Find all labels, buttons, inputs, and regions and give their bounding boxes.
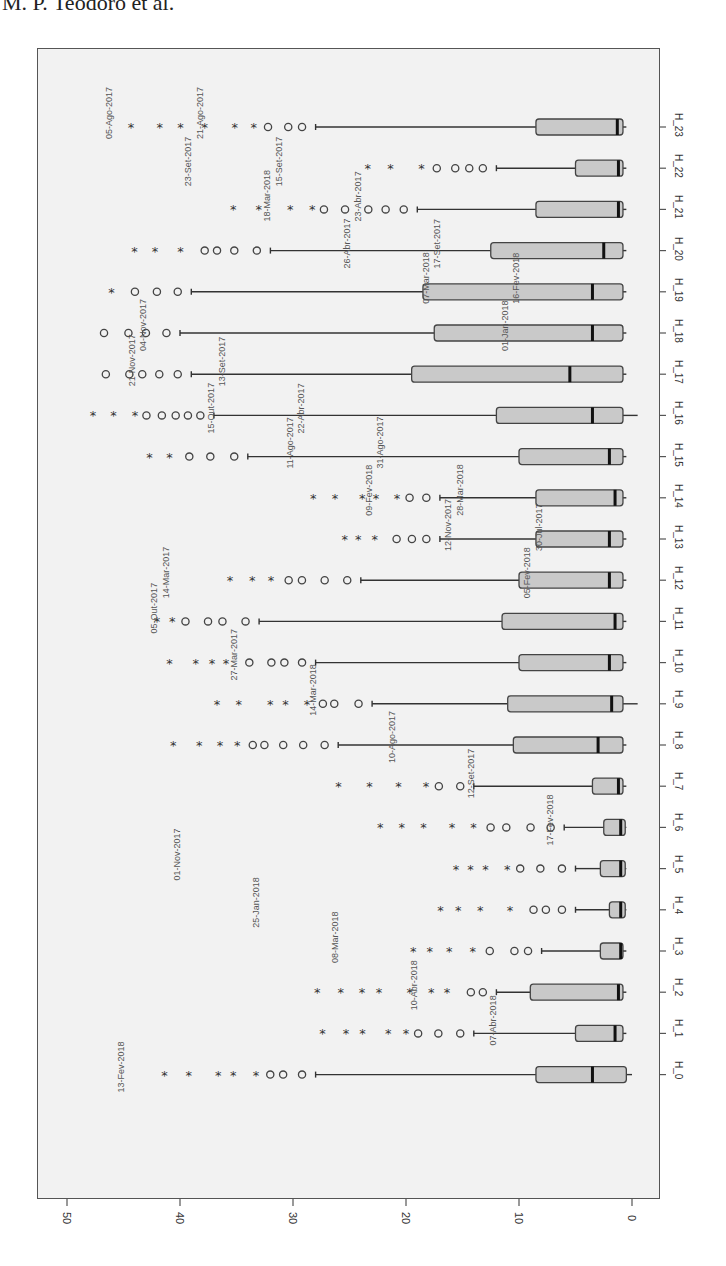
outlier-asterisk: * — [444, 985, 451, 1000]
outlier-asterisk: * — [128, 120, 135, 135]
outlier-circle — [231, 453, 238, 460]
outlier-circle — [393, 535, 400, 542]
outlier-date-label: 22-Abr-2017 — [296, 383, 306, 433]
outlier-circle — [524, 947, 531, 954]
outlier-date-label: 17-Fev-2018 — [545, 794, 555, 845]
outlier-circle — [319, 700, 326, 707]
outlier-circle — [558, 865, 565, 872]
category-label: H_11 — [673, 607, 684, 630]
outlier-circle — [487, 824, 494, 831]
box — [508, 696, 623, 712]
outlier-circle — [298, 1071, 305, 1078]
outlier-asterisk: * — [166, 656, 173, 671]
outlier-circle — [207, 453, 214, 460]
outlier-asterisk: * — [186, 1068, 193, 1083]
outlier-asterisk: * — [227, 573, 234, 588]
outlier-date-label: 17-Set-2017 — [432, 219, 442, 269]
outlier-asterisk: * — [214, 697, 221, 712]
outlier-asterisk: * — [310, 491, 317, 506]
category-label: H_14 — [673, 484, 684, 508]
outlier-asterisk: * — [426, 944, 433, 959]
outlier-circle — [261, 741, 268, 748]
outlier-date-label: 15-Out-2017 — [206, 383, 216, 434]
outlier-asterisk: * — [209, 656, 216, 671]
outlier-asterisk: * — [131, 244, 138, 259]
outlier-asterisk: * — [287, 202, 294, 217]
outlier-circle — [285, 123, 292, 130]
outlier-asterisk: * — [249, 573, 256, 588]
outlier-circle — [382, 206, 389, 213]
outlier-asterisk: * — [372, 532, 379, 547]
category-label: H_19 — [673, 278, 684, 302]
axis-tick-label: 10 — [513, 1208, 525, 1228]
outlier-asterisk: * — [230, 1068, 237, 1083]
outlier-asterisk: * — [387, 161, 394, 176]
outlier-circle — [406, 494, 413, 501]
outlier-date-label: 05-Fev-2018 — [522, 547, 532, 598]
outlier-date-label: 11-Ago-2017 — [285, 417, 295, 468]
outlier-asterisk: * — [132, 408, 139, 423]
outlier-circle — [415, 1030, 422, 1037]
box — [536, 201, 623, 217]
outlier-asterisk: * — [177, 120, 184, 135]
outlier-date-label: 16-Fev-2018 — [511, 253, 521, 304]
outlier-asterisk: * — [314, 985, 321, 1000]
outlier-date-label: 26-Abr-2017 — [342, 219, 352, 269]
outlier-asterisk: * — [196, 738, 203, 753]
category-label: H_6 — [673, 813, 684, 831]
axis-tick-label: 40 — [174, 1208, 186, 1228]
outlier-date-label: 31-Ago-2017 — [375, 417, 385, 469]
outlier-asterisk: * — [366, 779, 373, 794]
box — [609, 902, 625, 918]
outlier-circle — [365, 206, 372, 213]
outlier-circle — [321, 577, 328, 584]
outlier-asterisk: * — [309, 202, 316, 217]
outlier-asterisk: * — [108, 285, 115, 300]
outlier-circle — [298, 659, 305, 666]
outlier-date-label: 23-Abr-2017 — [353, 171, 363, 221]
outlier-circle — [452, 165, 459, 172]
outlier-asterisk: * — [215, 1068, 222, 1083]
outlier-circle — [131, 288, 138, 295]
outlier-asterisk: * — [335, 779, 342, 794]
outlier-asterisk: * — [482, 862, 489, 877]
outlier-circle — [268, 659, 275, 666]
outlier-circle — [408, 535, 415, 542]
outlier-circle — [503, 824, 510, 831]
outlier-circle — [320, 206, 327, 213]
outlier-circle — [537, 865, 544, 872]
outlier-circle — [433, 165, 440, 172]
outlier-asterisk: * — [166, 450, 173, 465]
outlier-circle — [466, 165, 473, 172]
outlier-asterisk: * — [231, 120, 238, 135]
outlier-asterisk: * — [110, 408, 117, 423]
outlier-circle — [298, 123, 305, 130]
outlier-circle — [331, 700, 338, 707]
outlier-asterisk: * — [282, 697, 289, 712]
outlier-date-label: 05-Ago-2017 — [104, 87, 114, 139]
outlier-asterisk: * — [428, 985, 435, 1000]
outlier-circle — [280, 741, 287, 748]
outlier-asterisk: * — [398, 820, 405, 835]
outlier-date-label: 18-Mar-2018 — [262, 170, 272, 222]
outlier-date-label: 15-Set-2017 — [274, 137, 284, 187]
outlier-asterisk: * — [377, 820, 384, 835]
outlier-circle — [527, 824, 534, 831]
outlier-circle — [264, 123, 271, 130]
outlier-circle — [486, 947, 493, 954]
box — [519, 449, 623, 465]
outlier-circle — [182, 618, 189, 625]
outlier-circle — [174, 288, 181, 295]
category-label: H_2 — [673, 978, 684, 996]
outlier-circle — [197, 412, 204, 419]
outlier-asterisk: * — [152, 244, 159, 259]
outlier-asterisk: * — [410, 944, 417, 959]
outlier-circle — [435, 1030, 442, 1037]
outlier-circle — [457, 783, 464, 790]
outlier-circle — [341, 206, 348, 213]
outlier-circle — [467, 989, 474, 996]
outlier-asterisk: * — [251, 120, 258, 135]
outlier-date-label: 07-Abr-2018 — [488, 995, 498, 1045]
outlier-date-label: 30-Jul-2017 — [534, 503, 544, 551]
outlier-asterisk: * — [161, 1068, 168, 1083]
